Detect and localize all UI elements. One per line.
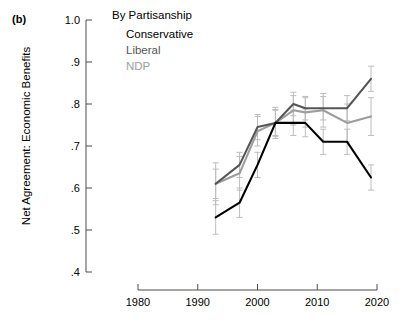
series-line-conservative xyxy=(216,123,371,217)
chart-figure: (b) Net Agreement: Economic Benefits 1.0… xyxy=(0,0,407,325)
plot-canvas xyxy=(0,0,407,325)
